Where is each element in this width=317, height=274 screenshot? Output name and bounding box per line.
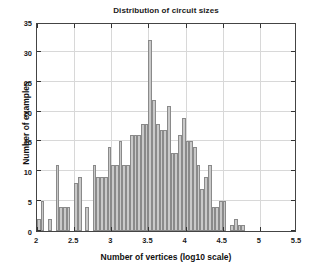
- plot-area: [36, 23, 296, 232]
- y-tick-mark-right: [291, 140, 295, 141]
- y-tick-mark: [37, 111, 41, 112]
- y-tick-mark: [37, 140, 41, 141]
- y-tick-label: 0: [10, 228, 32, 237]
- y-tick-mark: [37, 170, 41, 171]
- x-tick-mark: [260, 227, 261, 231]
- histogram-bar: [67, 207, 71, 231]
- x-tick-mark-top: [223, 24, 224, 28]
- x-tick-mark-top: [37, 24, 38, 28]
- x-tick-mark-top: [111, 24, 112, 28]
- x-tick-mark-top: [148, 24, 149, 28]
- x-tick-mark-top: [186, 24, 187, 28]
- x-tick-mark: [148, 227, 149, 231]
- x-tick-mark-top: [74, 24, 75, 28]
- x-tick-mark: [223, 227, 224, 231]
- y-tick-label: 35: [10, 19, 32, 28]
- x-tick-label: 4: [182, 236, 186, 245]
- y-axis-label: Number of examples: [21, 48, 31, 198]
- histogram-bars: [37, 24, 295, 231]
- y-tick-mark-right: [291, 230, 295, 231]
- x-tick-label: 5: [257, 236, 261, 245]
- y-tick-mark-right: [291, 111, 295, 112]
- y-tick-mark: [37, 230, 41, 231]
- histogram-bar: [78, 177, 82, 231]
- y-tick-mark-right: [291, 51, 295, 52]
- y-tick-mark: [37, 51, 41, 52]
- x-tick-label: 3: [108, 236, 112, 245]
- y-tick-label: 5: [10, 198, 32, 207]
- page-title: Distribution of circuit sizes: [36, 6, 296, 15]
- x-tick-label: 2: [34, 236, 38, 245]
- histogram-figure: Distribution of circuit sizes 22.533.544…: [0, 0, 317, 274]
- x-tick-label: 4.5: [216, 236, 226, 245]
- histogram-bar: [48, 219, 52, 231]
- x-tick-mark: [74, 227, 75, 231]
- y-tick-mark-right: [291, 170, 295, 171]
- y-tick-mark: [37, 200, 41, 201]
- x-tick-label: 3.5: [142, 236, 152, 245]
- x-tick-mark: [111, 227, 112, 231]
- histogram-bar: [241, 225, 245, 231]
- y-tick-mark: [37, 81, 41, 82]
- x-axis-label: Number of vertices (log10 scale): [36, 252, 296, 262]
- histogram-bar: [41, 201, 45, 231]
- x-tick-mark: [186, 227, 187, 231]
- y-tick-mark-right: [291, 81, 295, 82]
- x-tick-label: 5.5: [291, 236, 301, 245]
- histogram-bar: [85, 207, 89, 231]
- x-tick-mark-top: [260, 24, 261, 28]
- x-tick-label: 2.5: [68, 236, 78, 245]
- y-tick-mark-right: [291, 200, 295, 201]
